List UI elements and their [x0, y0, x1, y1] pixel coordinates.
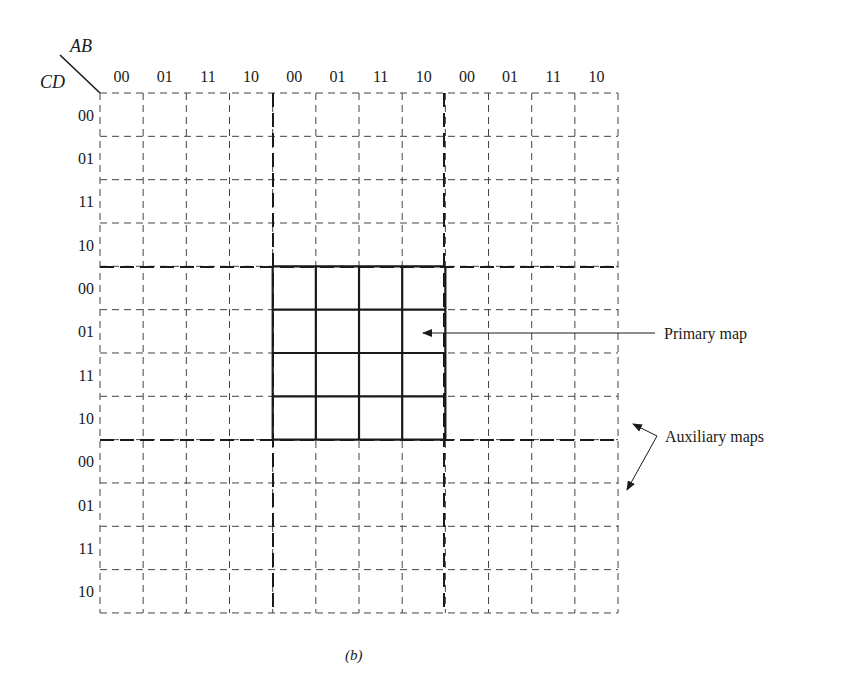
karnaugh-map-diagram: AB CD 000111100001111000011110 000111100… — [0, 0, 842, 694]
column-variable-label: AB — [69, 36, 92, 56]
column-label: 00 — [114, 68, 130, 85]
column-label: 11 — [200, 68, 215, 85]
row-label: 01 — [78, 150, 94, 167]
column-label: 00 — [459, 68, 475, 85]
figure-caption: (b) — [345, 647, 363, 664]
column-label: 11 — [373, 68, 388, 85]
column-label: 01 — [157, 68, 173, 85]
row-labels: 000111100001111000011110 — [78, 107, 94, 601]
row-label: 11 — [79, 367, 94, 384]
column-label: 01 — [329, 68, 345, 85]
column-label: 10 — [588, 68, 604, 85]
primary-map-label: Primary map — [664, 325, 747, 343]
row-label: 00 — [78, 453, 94, 470]
corner-diagonal — [60, 55, 100, 93]
auxiliary-map-arrow-lower — [627, 436, 657, 490]
column-label: 01 — [502, 68, 518, 85]
row-variable-label: CD — [40, 72, 65, 92]
column-label: 10 — [416, 68, 432, 85]
row-label: 00 — [78, 280, 94, 297]
row-label: 10 — [78, 410, 94, 427]
row-label: 11 — [79, 540, 94, 557]
column-labels: 000111100001111000011110 — [114, 68, 605, 85]
row-label: 10 — [78, 583, 94, 600]
primary-map — [273, 266, 446, 439]
row-label: 01 — [78, 497, 94, 514]
auxiliary-map-arrow-upper — [633, 424, 657, 436]
auxiliary-maps-label: Auxiliary maps — [665, 428, 764, 446]
row-label: 11 — [79, 193, 94, 210]
column-label: 00 — [286, 68, 302, 85]
row-label: 01 — [78, 323, 94, 340]
row-label: 00 — [78, 107, 94, 124]
column-label: 10 — [243, 68, 259, 85]
column-label: 11 — [546, 68, 561, 85]
row-label: 10 — [78, 237, 94, 254]
